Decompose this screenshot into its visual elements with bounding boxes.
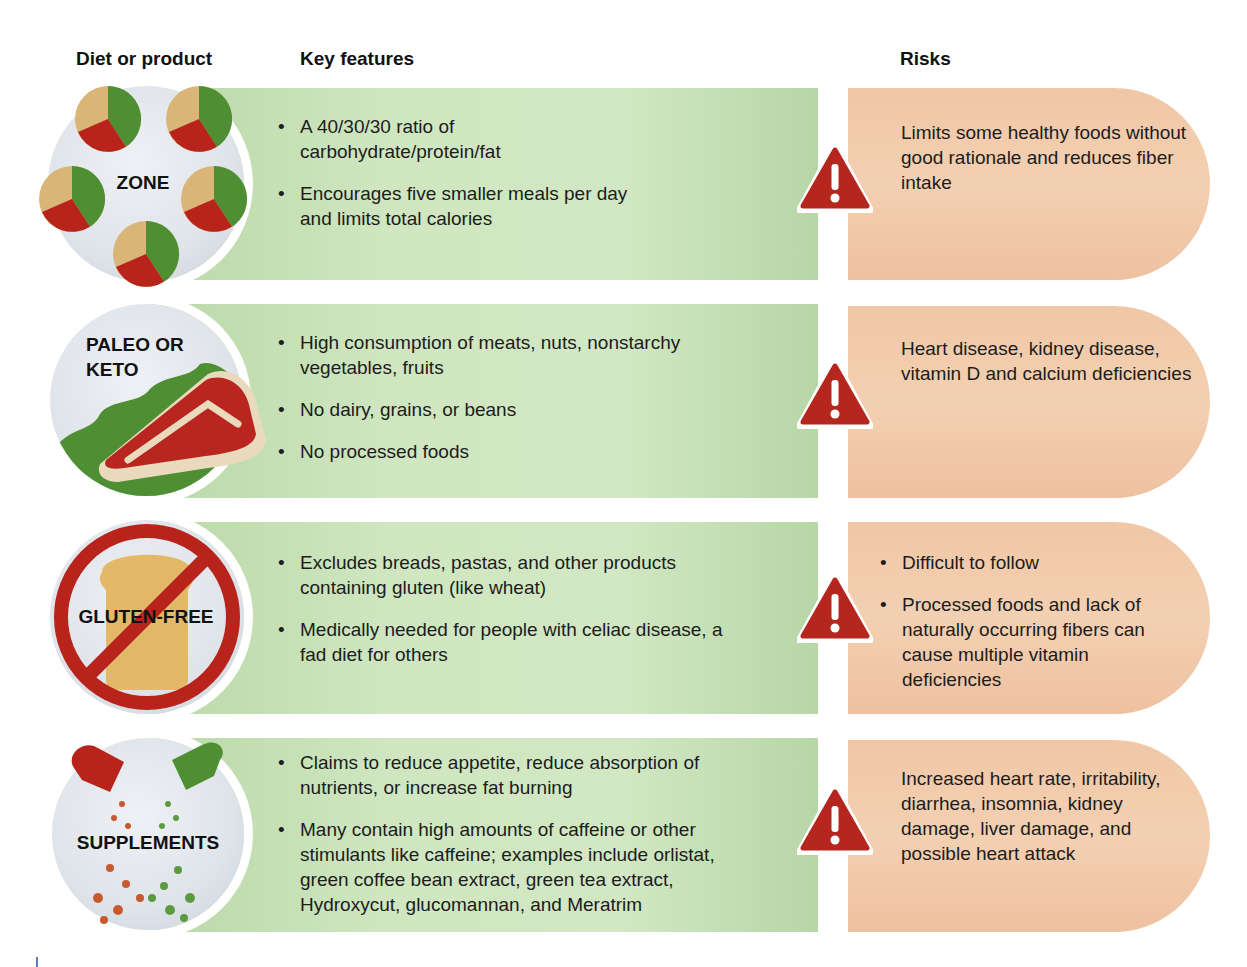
risk-item: Difficult to follow (880, 550, 1180, 575)
diet-label-supplements: SUPPLEMENTS (68, 830, 228, 855)
features-list: High consumption of meats, nuts, nonstar… (278, 330, 728, 481)
feature-item: A 40/30/30 ratio of carbohydrate/protein… (278, 114, 638, 164)
row-paleo-keto: PALEO OR KETO High consumption of meats,… (0, 304, 1247, 500)
warning-icon (797, 572, 873, 644)
feature-item: Medically needed for people with celiac … (278, 617, 728, 667)
warning-icon (797, 358, 873, 430)
features-list: Excludes breads, pastas, and other produ… (278, 550, 728, 684)
risk-item: Processed foods and lack of naturally oc… (880, 592, 1180, 692)
row-supplements: SUPPLEMENTS Claims to reduce appetite, r… (0, 738, 1247, 934)
caption-marker (36, 957, 38, 967)
diet-label-paleo-keto: PALEO OR KETO (86, 332, 184, 382)
features-list: Claims to reduce appetite, reduce absorp… (278, 750, 748, 934)
header-key-features: Key features (300, 48, 414, 70)
feature-item: No processed foods (278, 439, 728, 464)
row-gluten-free: GLUTEN-FREE Excludes breads, pastas, and… (0, 520, 1247, 716)
feature-item: Encourages five smaller meals per day an… (278, 181, 638, 231)
header-risks: Risks (900, 48, 951, 70)
diet-label-gluten-free: GLUTEN-FREE (66, 604, 226, 629)
feature-item: High consumption of meats, nuts, nonstar… (278, 330, 728, 380)
feature-item: Excludes breads, pastas, and other produ… (278, 550, 728, 600)
feature-item: No dairy, grains, or beans (278, 397, 728, 422)
warning-icon (797, 142, 873, 214)
warning-icon (797, 784, 873, 856)
risk-box (848, 306, 1210, 498)
diet-label-zone: ZONE (100, 170, 186, 195)
header-diet-or-product: Diet or product (76, 48, 212, 70)
row-zone: ZONE A 40/30/30 ratio of carbohydrate/pr… (0, 86, 1247, 282)
risk-text: Increased heart rate, irritability, diar… (901, 766, 1201, 866)
features-list: A 40/30/30 ratio of carbohydrate/protein… (278, 114, 638, 248)
diet-label-line2: KETO (86, 357, 184, 382)
feature-item: Many contain high amounts of caffeine or… (278, 817, 748, 917)
risk-text: Limits some healthy foods without good r… (901, 120, 1201, 195)
steak-icon (88, 364, 273, 484)
risk-text: Heart disease, kidney disease, vitamin D… (901, 336, 1201, 386)
risk-list: Difficult to follow Processed foods and … (880, 550, 1180, 709)
diet-label-line1: PALEO OR (86, 332, 184, 357)
feature-item: Claims to reduce appetite, reduce absorp… (278, 750, 748, 800)
